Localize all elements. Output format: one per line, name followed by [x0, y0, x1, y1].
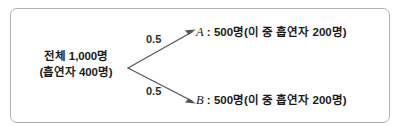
branch-a-separator: :	[207, 26, 211, 38]
branch-b-name: B	[196, 93, 204, 107]
branch-node-a: A : 500명(이 중 흡연자 200명)	[196, 25, 347, 40]
arrowhead-a-icon	[185, 30, 196, 35]
arrowhead-b-icon	[185, 98, 196, 103]
root-node-line1: 전체 1,000명	[24, 48, 128, 64]
root-node-line2: (흡연자 400명)	[24, 64, 128, 80]
branch-a-description: 500명(이 중 흡연자 200명)	[214, 26, 347, 38]
branch-node-b: B : 500명(이 중 흡연자 200명)	[196, 93, 347, 108]
branch-b-separator: :	[207, 94, 211, 106]
root-node: 전체 1,000명 (흡연자 400명)	[24, 48, 128, 80]
probability-tree-figure: 전체 1,000명 (흡연자 400명) 0.5 0.5 A : 500명(이 …	[0, 0, 405, 133]
branch-b-description: 500명(이 중 흡연자 200명)	[214, 94, 347, 106]
probability-label-a: 0.5	[146, 33, 161, 45]
branch-a-name: A	[196, 25, 204, 39]
probability-label-b: 0.5	[146, 85, 161, 97]
